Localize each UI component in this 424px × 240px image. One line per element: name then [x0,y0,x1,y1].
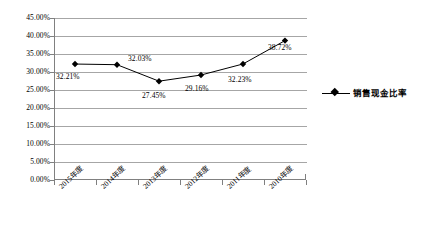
data-point-marker [156,78,162,84]
y-axis-label: 35.00% [0,50,50,58]
x-axis-tick [96,180,97,185]
data-point-marker [198,72,204,78]
data-label: 32.21% [56,73,80,81]
x-axis-tick [180,180,181,185]
legend: 销售现金比率 [322,88,407,98]
data-point-marker [72,61,78,67]
data-label: 32.23% [228,76,252,84]
y-axis-label: 25.00% [0,86,50,94]
data-point-marker [240,61,246,67]
y-axis-label: 10.00% [0,140,50,148]
data-label: 32.03% [128,55,152,63]
y-axis-label: 20.00% [0,104,50,112]
y-axis-label: 40.00% [0,32,50,40]
y-axis-label: 5.00% [0,158,50,166]
legend-marker-diamond-icon [322,89,350,98]
y-axis: 45.00% 40.00% 35.00% 30.00% 25.00% 20.00… [0,18,50,180]
legend-label: 销售现金比率 [353,88,407,98]
y-axis-label: 0.00% [0,176,50,184]
series-line [75,41,285,82]
series-markers [72,37,288,84]
data-label: 29.16% [185,85,209,93]
line-chart: 45.00% 40.00% 35.00% 30.00% 25.00% 20.00… [0,0,424,240]
x-axis-tick [264,180,265,185]
data-point-marker [114,61,120,67]
y-axis-label: 45.00% [0,14,50,22]
x-axis-tick [306,180,307,185]
x-axis-tick [54,180,55,185]
x-axis-tick [222,180,223,185]
y-axis-label: 30.00% [0,68,50,76]
x-axis-tick [138,180,139,185]
data-label: 27.45% [142,92,166,100]
y-axis-label: 15.00% [0,122,50,130]
data-label: 38.72% [268,44,292,52]
